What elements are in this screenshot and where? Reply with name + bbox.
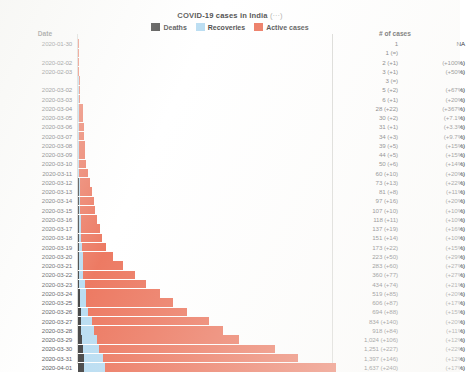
stacked-bar bbox=[78, 95, 80, 104]
row-date: 2020-03-21 bbox=[0, 262, 78, 269]
row-case-percent: (+20%) bbox=[401, 170, 470, 177]
bar-segment-recoveries bbox=[84, 363, 105, 372]
stacked-bar bbox=[78, 39, 79, 48]
row-bar-cell bbox=[78, 224, 336, 233]
stacked-bar bbox=[78, 197, 94, 206]
row-case-count: 97 (+16) bbox=[336, 197, 401, 204]
row-bar-cell bbox=[78, 270, 336, 279]
bar-segment-recoveries bbox=[83, 345, 99, 354]
row-bar-cell bbox=[78, 233, 336, 242]
legend-label-active: Active cases bbox=[266, 24, 308, 31]
row-bar-cell bbox=[78, 39, 336, 48]
row-case-percent: (+50%) bbox=[401, 68, 470, 75]
row-case-count: 60 (+10) bbox=[336, 170, 401, 177]
row-bar-cell bbox=[78, 252, 336, 261]
bar-segment-recoveries bbox=[80, 298, 87, 307]
row-date: 2020-04-01 bbox=[0, 364, 78, 371]
row-date: 2020-03-15 bbox=[0, 207, 78, 214]
row-bar-cell bbox=[78, 141, 336, 150]
bar-segment-active bbox=[82, 243, 105, 252]
bar-segment-active bbox=[86, 298, 173, 307]
chart-row: 2020-03-18151 (+14)(+10%) bbox=[0, 233, 460, 242]
chart-row: 2020-03-22360 (+77)(+27%) bbox=[0, 270, 460, 279]
row-case-percent: (+27%) bbox=[401, 262, 470, 269]
bar-segment-active bbox=[81, 224, 100, 233]
row-case-percent: (+16%) bbox=[401, 225, 470, 232]
row-bar-cell bbox=[78, 307, 336, 316]
chart-row: 2020-03-25606 (+87)(+17%) bbox=[0, 298, 460, 307]
column-header-cases: # of cases bbox=[336, 30, 454, 37]
chart-row: 2020-03-1497 (+16)(+20%) bbox=[0, 196, 460, 205]
bar-segment-active bbox=[81, 215, 97, 224]
bar-segment-active bbox=[88, 308, 187, 317]
stacked-bar bbox=[78, 86, 80, 95]
stacked-bar bbox=[78, 243, 106, 252]
stacked-bar bbox=[78, 169, 88, 178]
row-date: 2020-03-04 bbox=[0, 105, 78, 112]
row-case-count: 223 (+50) bbox=[336, 253, 401, 260]
stacked-bar bbox=[78, 113, 83, 122]
row-case-percent: (+14%) bbox=[401, 160, 470, 167]
row-bar-cell bbox=[78, 335, 336, 344]
row-case-count: 1,251 (+227) bbox=[336, 345, 401, 352]
row-date: 2020-03-28 bbox=[0, 327, 78, 334]
bar-segment-active bbox=[79, 123, 84, 132]
legend-swatch-active bbox=[254, 23, 263, 31]
bar-segment-active bbox=[105, 363, 336, 372]
stacked-bar bbox=[78, 271, 135, 280]
chart-row: 2020-03-0944 (+5)(+15%) bbox=[0, 150, 460, 159]
row-date: 2020-03-19 bbox=[0, 244, 78, 251]
bar-segment-active bbox=[79, 95, 80, 104]
row-bar-cell bbox=[78, 354, 336, 363]
row-case-count: 360 (+77) bbox=[336, 271, 401, 278]
bar-segment-active bbox=[86, 289, 160, 298]
stacked-bar bbox=[78, 160, 86, 169]
row-date: 2020-03-03 bbox=[0, 96, 78, 103]
row-date: 2020-01-30 bbox=[0, 40, 78, 47]
bar-segment-active bbox=[79, 104, 83, 113]
chart-row: 2020-03-1160 (+10)(+20%) bbox=[0, 169, 460, 178]
row-case-percent: (+21%) bbox=[401, 281, 470, 288]
bar-segment-recoveries bbox=[84, 354, 103, 363]
row-date: 2020-03-24 bbox=[0, 290, 78, 297]
row-case-percent: (+10%) bbox=[401, 234, 470, 241]
row-case-percent: (+9.7%) bbox=[401, 133, 470, 140]
chart-title-text: COVID-19 cases in India bbox=[177, 11, 267, 20]
stacked-bar bbox=[78, 141, 85, 150]
row-bar-cell bbox=[78, 58, 336, 67]
chart-row: 2020-03-26694 (+88)(+15%) bbox=[0, 307, 460, 316]
chart-row: 2020-03-15107 (+10)(+10%) bbox=[0, 206, 460, 215]
row-bar-cell bbox=[78, 113, 336, 122]
row-bar-cell bbox=[78, 104, 336, 113]
row-bar-cell bbox=[78, 159, 336, 168]
bar-segment-active bbox=[92, 317, 210, 326]
page-title: COVID-19 cases in India (···) bbox=[0, 10, 460, 21]
row-case-count: 1,024 (+106) bbox=[336, 336, 401, 343]
row-bar-cell bbox=[78, 215, 336, 224]
row-case-count: 1,637 (+240) bbox=[336, 364, 401, 371]
row-case-percent: (+7.1%) bbox=[401, 114, 470, 121]
chart-row: 2020-03-0839 (+5)(+15%) bbox=[0, 141, 460, 150]
row-bar-cell bbox=[78, 178, 336, 187]
row-date: 2020-02-02 bbox=[0, 59, 78, 66]
bar-segment-active bbox=[80, 187, 92, 196]
bar-segment-active bbox=[79, 169, 88, 178]
row-date: 2020-03-20 bbox=[0, 253, 78, 260]
chart-row: 2020-03-0734 (+3)(+9.7%) bbox=[0, 132, 460, 141]
chart-row: 2020-02-022 (+1)(+100%) bbox=[0, 58, 460, 67]
legend-label-deaths: Deaths bbox=[163, 24, 186, 31]
stacked-bar bbox=[78, 317, 209, 326]
row-date: 2020-03-10 bbox=[0, 160, 78, 167]
row-case-percent: (+67%) bbox=[401, 86, 470, 93]
row-case-count: 81 (+8) bbox=[336, 188, 401, 195]
chart-row: 2020-03-301,251 (+227)(+22%) bbox=[0, 344, 460, 353]
chart-row: 2020-03-291,024 (+106)(+12%) bbox=[0, 335, 460, 344]
row-case-percent: (+11%) bbox=[401, 188, 470, 195]
bar-segment-active bbox=[78, 49, 79, 58]
chart-row: 2020-01-301NA bbox=[0, 39, 460, 48]
bar-segment-active bbox=[79, 113, 84, 122]
row-bar-cell bbox=[78, 169, 336, 178]
row-case-count: 834 (+140) bbox=[336, 318, 401, 325]
bar-segment-active bbox=[79, 150, 85, 159]
